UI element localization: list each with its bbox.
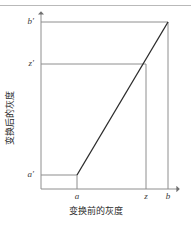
y-axis-title: 变换后的灰度: [6, 63, 15, 173]
figure-container: b′ z′ a′ a z b 变换后的灰度 变换前的灰度: [0, 0, 191, 228]
transformation-curve: [77, 22, 168, 175]
x-tick-label-z: z: [138, 192, 154, 201]
x-tick-label-a: a: [69, 192, 85, 201]
x-axis-title: 变换前的灰度: [0, 207, 191, 216]
y-tick-label-b-prime: b′: [8, 17, 34, 26]
x-tick-label-b: b: [160, 192, 176, 201]
